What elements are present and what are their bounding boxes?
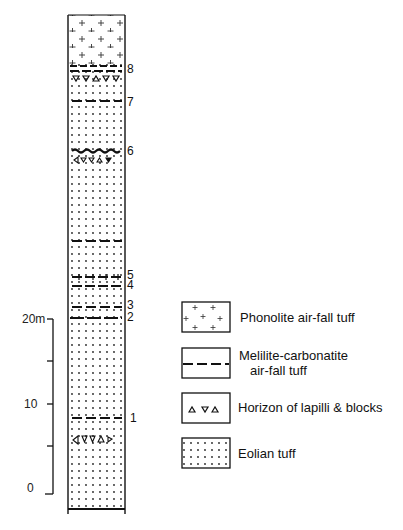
unit-label-1: 1 (130, 412, 137, 424)
legend-label-phonolite: Phonolite air-fall tuff (240, 311, 355, 325)
legend-label-melilite-line1: Melilite-carbonatite (239, 349, 348, 363)
unit-label-4: 4 (127, 279, 134, 291)
scale-label-10: 10 (24, 398, 37, 410)
scale-label-20m: 20m (22, 313, 45, 325)
column-phonolite-layer (68, 15, 125, 64)
legend-swatch-phonolite (182, 302, 230, 332)
unit-label-6: 6 (127, 145, 134, 157)
legend-swatch-melilite (182, 348, 230, 378)
legend-swatch-lapilli (182, 393, 230, 423)
legend-label-melilite-line2: air-fall tuff (250, 364, 307, 378)
unit-label-7: 7 (127, 96, 134, 108)
legend-swatch-eolian (182, 438, 230, 468)
legend-label-lapilli: Horizon of lapilli & blocks (238, 401, 383, 415)
unit-label-8: 8 (127, 63, 134, 75)
unit-label-2: 2 (127, 311, 134, 323)
scale-bar (45, 319, 53, 494)
legend-label-eolian: Eolian tuff (238, 447, 296, 461)
section-diagram (0, 0, 403, 530)
scale-label-0: 0 (27, 482, 34, 494)
